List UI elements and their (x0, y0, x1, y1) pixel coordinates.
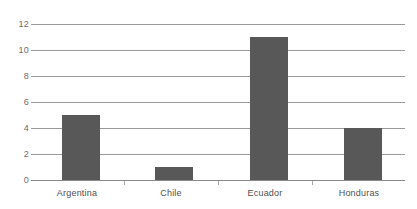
bar-chart: 12 10 8 6 4 2 0 Argentina Chile Ecuador … (0, 0, 417, 209)
y-tick-label-2: 2 (3, 149, 29, 159)
plot-area (31, 24, 405, 180)
x-tick-label-ecuador: Ecuador (222, 188, 308, 199)
y-tick-label-4: 4 (3, 123, 29, 133)
gridline-10 (31, 50, 405, 51)
y-tick-label-0: 0 (3, 175, 29, 185)
gridline-12 (31, 24, 405, 25)
x-tick-label-chile: Chile (128, 188, 214, 199)
x-tick-mark-3 (312, 181, 313, 185)
y-tick-label-10: 10 (3, 45, 29, 55)
x-tick-mark-2 (218, 181, 219, 185)
bar-argentina (62, 115, 100, 180)
y-axis: 12 10 8 6 4 2 0 (0, 0, 29, 209)
bar-ecuador (250, 37, 288, 180)
y-tick-label-12: 12 (3, 19, 29, 29)
x-tick-label-honduras: Honduras (316, 188, 402, 199)
y-tick-label-6: 6 (3, 97, 29, 107)
gridline-8 (31, 76, 405, 77)
x-tick-mark-1 (124, 181, 125, 185)
bar-honduras (344, 128, 382, 180)
x-tick-label-argentina: Argentina (34, 188, 120, 199)
y-tick-label-8: 8 (3, 71, 29, 81)
gridline-6 (31, 102, 405, 103)
bar-chile (155, 167, 193, 180)
